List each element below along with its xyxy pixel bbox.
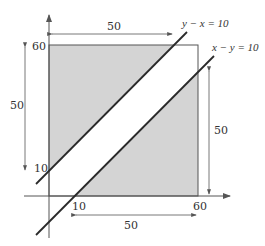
y-tick-label-60: 60 [32,40,46,53]
equation-label-y-minus-x: y − x = 10 [181,17,229,29]
y-tick-label-10: 10 [34,162,48,175]
dimension-label-right: 50 [214,124,228,137]
region-diagram: 50 50 50 50 60 10 10 60 y − x = 10 x − y… [0,0,265,246]
diagram-canvas: 50 50 50 50 60 10 10 60 y − x = 10 x − y… [0,0,265,246]
x-tick-label-10: 10 [72,200,86,213]
equation-label-x-minus-y: x − y = 10 [211,41,259,53]
dimension-label-bottom: 50 [124,219,138,232]
dimension-label-left: 50 [10,99,24,112]
dimension-label-top: 50 [107,20,121,33]
x-tick-label-60: 60 [193,200,207,213]
